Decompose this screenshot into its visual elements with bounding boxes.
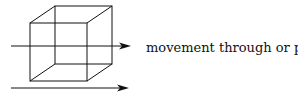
- cube-arrows-figure: [0, 0, 140, 98]
- diagram-caption: movement through or past: [146, 40, 298, 55]
- arrow-past: [11, 85, 129, 92]
- cube-front-face: [30, 23, 87, 81]
- cube-edges: [30, 6, 112, 81]
- arrow-through: [11, 43, 131, 50]
- cube-back-face: [55, 6, 112, 64]
